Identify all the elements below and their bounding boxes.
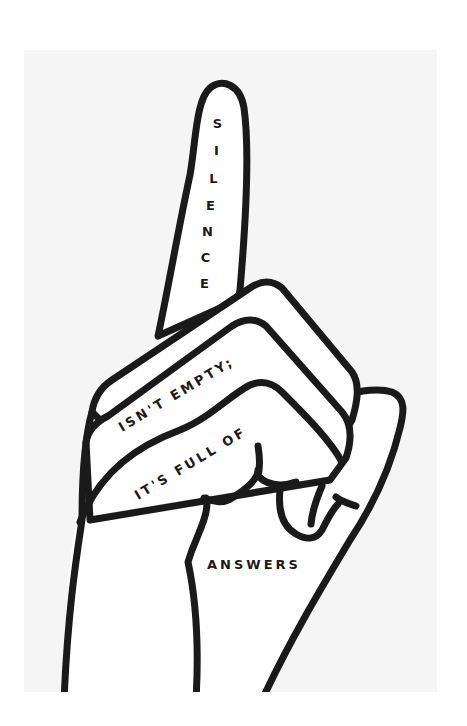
finger-letter: I	[214, 143, 222, 158]
finger-letter: N	[202, 224, 216, 239]
finger-letter: L	[209, 171, 220, 186]
poster: S I L E N C E ISN'T EMPTY; IT'S FULL OF …	[0, 0, 467, 726]
hand-illustration: S I L E N C E ISN'T EMPTY; IT'S FULL OF …	[0, 0, 467, 726]
finger-letter: E	[200, 276, 212, 291]
finger-letter: E	[206, 198, 218, 213]
finger-letter: S	[213, 116, 225, 131]
quote-line-answers: ANSWERS	[207, 557, 301, 572]
finger-letter: C	[201, 250, 214, 265]
